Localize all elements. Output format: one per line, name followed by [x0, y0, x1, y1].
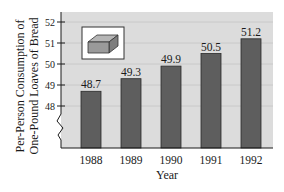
bar-1992 — [241, 39, 261, 148]
x-axis-title: Year — [156, 168, 178, 182]
bar-value-label: 49.3 — [121, 66, 141, 78]
x-tick-label: 1988 — [80, 154, 103, 166]
y-tick-label: 50 — [45, 59, 55, 70]
bar-value-label: 48.7 — [81, 78, 101, 90]
x-tick-label: 1989 — [120, 154, 143, 166]
bar-value-label: 49.9 — [161, 53, 181, 65]
x-tick-labels: 19881989199019911992 — [80, 154, 263, 166]
bar-1988 — [81, 91, 101, 148]
x-tick-label: 1991 — [200, 154, 223, 166]
y-axis-title: Per-Person Consumption of One-Pound Loav… — [13, 18, 41, 155]
bar-value-label: 51.2 — [241, 26, 261, 38]
bar-1990 — [161, 66, 181, 148]
y-axis-title-line-1: Per-Person Consumption of — [13, 19, 27, 152]
x-tick-label: 1990 — [160, 154, 183, 166]
y-tick-label: 48 — [45, 101, 55, 112]
bread-loaf-icon-frame — [82, 27, 124, 59]
bar-1991 — [201, 54, 221, 149]
y-tick-label: 49 — [45, 80, 55, 91]
x-tick-label: 1992 — [240, 154, 263, 166]
y-tick-label: 51 — [45, 38, 55, 49]
bar-chart: 48.749.349.950.551.2 4849505152 19881989… — [0, 0, 284, 192]
y-tick-label: 52 — [45, 17, 55, 28]
bar-1989 — [121, 79, 141, 148]
bar-value-label: 50.5 — [201, 41, 221, 53]
y-axis-title-line-2: One-Pound Loaves of Bread — [27, 18, 41, 155]
